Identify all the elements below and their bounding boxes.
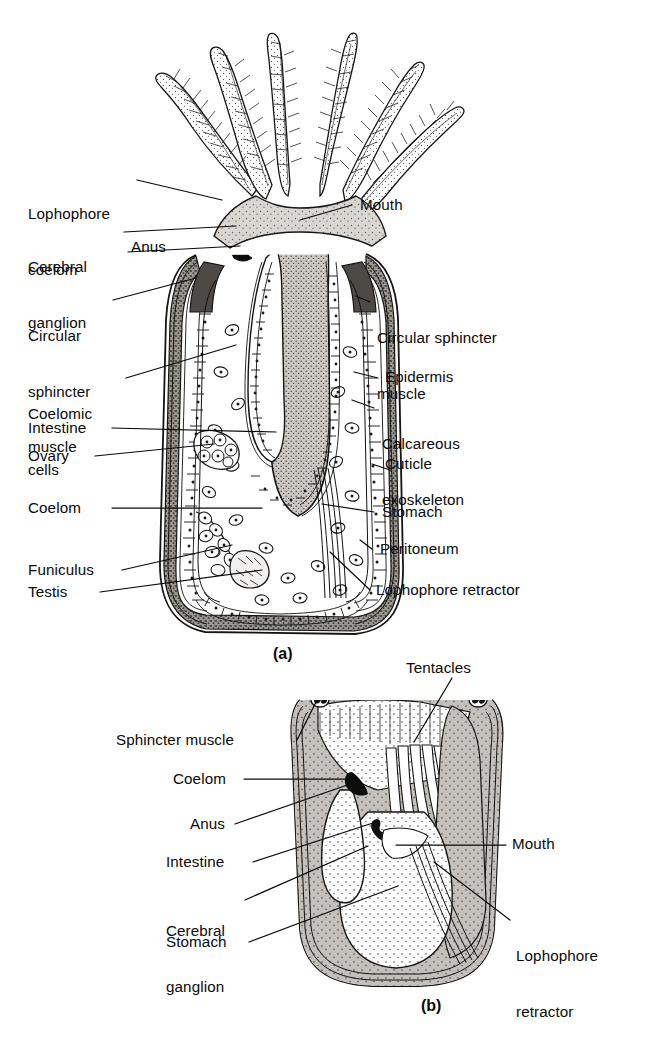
label-stomach-a: Stomach <box>382 503 443 522</box>
label-intestine-b: Intestine <box>166 853 224 872</box>
label-ovary: Ovary <box>28 447 69 466</box>
label-cuticle: Cuticle <box>385 455 432 474</box>
lophophore-tentacles <box>156 33 464 212</box>
label-funiculus: Funiculus <box>28 561 94 580</box>
label-coelomic-cells: Coelomic cells <box>28 368 168 516</box>
anatomy-figure: Lophophore coelom Cerebral ganglion Anus… <box>0 0 651 1037</box>
sphincter-muscle-b-right <box>469 693 487 707</box>
label-coelom-b: Coelom <box>173 770 226 789</box>
label-testis: Testis <box>28 583 67 602</box>
label-mouth-a: Mouth <box>360 196 403 215</box>
caption-b: (b) <box>421 997 441 1015</box>
label-peritoneum: Peritoneum <box>380 540 459 559</box>
label-mouth-b: Mouth <box>512 835 555 854</box>
label-epidermis: Epidermis <box>385 368 453 387</box>
label-lophophore-retractor-a: Lophophore retractor <box>376 581 520 600</box>
caption-a: (a) <box>273 645 293 663</box>
label-intestine-a: Intestine <box>28 419 86 438</box>
label-anus-b: Anus <box>190 815 225 834</box>
label-tentacles-b: Tentacles <box>406 659 471 678</box>
label-sphincter-muscle-b: Sphincter muscle <box>116 731 234 750</box>
sphincter-muscle-b <box>311 693 329 707</box>
label-anus-a: Anus <box>131 238 166 257</box>
label-coelom-a: Coelom <box>28 499 81 518</box>
label-cerebral-ganglion-b: Cerebral ganglion <box>166 885 296 1033</box>
label-stomach-b: Stomach <box>166 933 227 952</box>
label-lophophore-retractor-b: Lophophore retractor <box>516 910 646 1037</box>
